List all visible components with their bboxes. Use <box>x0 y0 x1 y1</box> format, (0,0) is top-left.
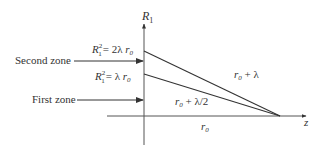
vertical-axis-label: R1 <box>141 9 153 25</box>
lower-ray <box>144 74 280 116</box>
horizontal-axis-label: z <box>303 116 309 128</box>
upper-ray <box>144 51 280 116</box>
second-zone-formula: R21= 2λ r0 <box>91 42 134 58</box>
first-zone-label: First zone <box>32 93 76 105</box>
first-zone-formula: R21= λ r0 <box>94 69 131 85</box>
lower-path-label: r0 + λ/2 <box>175 95 208 109</box>
axis-distance-label: r0 <box>201 120 209 134</box>
fresnel-zone-diagram: R1 z Second zone First zone R21= 2λ r0 R… <box>0 0 321 160</box>
second-zone-label: Second zone <box>15 54 71 66</box>
upper-path-label: r0 + λ <box>234 68 259 82</box>
